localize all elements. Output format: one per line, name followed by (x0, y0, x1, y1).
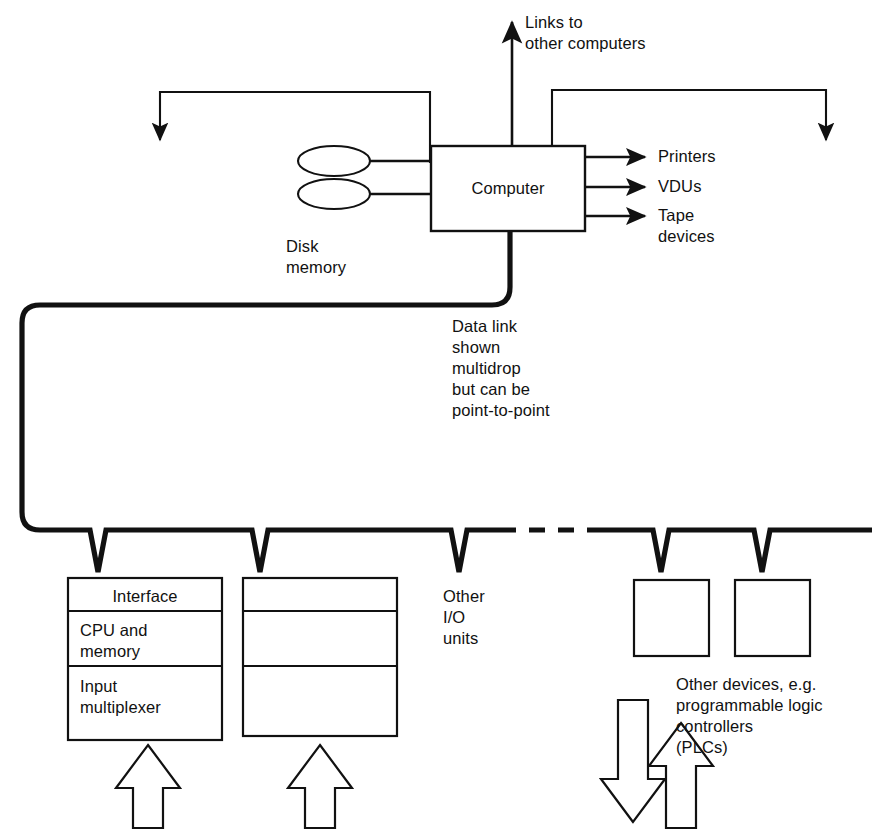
links-to-other-computers-label: Links to other computers (525, 12, 646, 54)
io-unit-box-2 (243, 578, 397, 736)
vdus-label: VDUs (658, 176, 702, 197)
multidrop-data-link-bus (22, 231, 872, 572)
disk-memory-label: Disk memory (286, 236, 346, 278)
input-arrow-unit-2 (288, 745, 352, 828)
loop-arrow-down-left (160, 92, 430, 163)
diagram-canvas: Links to other computers Computer Disk m… (0, 0, 880, 830)
unit1-row-input-multiplexer-label: Input multiplexer (80, 676, 161, 718)
data-link-note: Data link shown multidrop but can be poi… (452, 316, 550, 421)
disk-platter-icon-bottom (298, 179, 430, 209)
loop-arrow-down-right (552, 90, 826, 147)
unit1-row-cpu-memory-label: CPU and memory (80, 620, 148, 662)
tape-devices-label: Tape devices (658, 205, 715, 247)
computer-box-label: Computer (431, 178, 585, 199)
device-box-b (735, 580, 810, 656)
input-arrow-unit-1 (116, 745, 180, 828)
device-box-a (634, 580, 709, 656)
unit1-row-interface-label: Interface (68, 586, 222, 607)
disk-platter-icon-top (298, 146, 430, 176)
other-io-units-label: Other I/O units (443, 586, 485, 649)
other-devices-note: Other devices, e.g. programmable logic c… (676, 674, 823, 758)
printers-label: Printers (658, 146, 716, 167)
